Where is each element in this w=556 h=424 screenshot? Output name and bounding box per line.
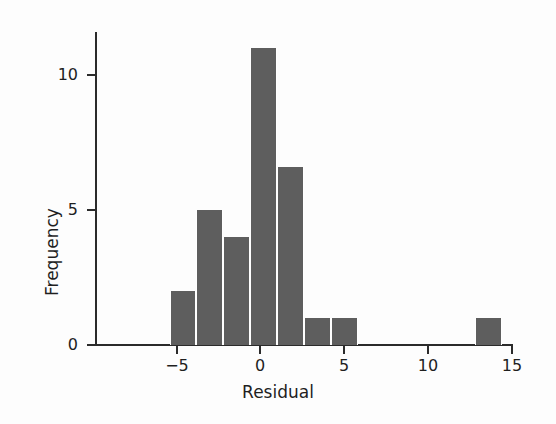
x-ticklabel-0: 0 [235, 356, 285, 375]
x-ticklabel-15: 15 [487, 356, 537, 375]
histogram-bar [277, 167, 304, 345]
x-tick-5 [343, 346, 345, 354]
plot-area: 10 5 0 −5 0 5 10 15 Frequency Residual [0, 0, 556, 424]
y-tick-5 [87, 209, 95, 211]
x-ticklabel-5: 5 [319, 356, 369, 375]
y-axis-label: Frequency [42, 208, 62, 296]
histogram-figure: 10 5 0 −5 0 5 10 15 Frequency Residual [0, 0, 556, 424]
histogram-bar [196, 210, 223, 345]
y-axis-label-wrap: Frequency [18, 100, 48, 300]
x-tick-minus5 [176, 346, 178, 354]
y-tick-0 [87, 344, 95, 346]
x-ticklabel-10: 10 [403, 356, 453, 375]
x-ticklabel-minus5: −5 [152, 356, 202, 375]
histogram-bar [331, 318, 358, 345]
histogram-bar [304, 318, 331, 345]
x-tick-10 [427, 346, 429, 354]
x-axis-label: Residual [0, 382, 556, 402]
histogram-bar [223, 237, 250, 345]
y-tick-10 [87, 74, 95, 76]
x-tick-0 [259, 346, 261, 354]
y-ticklabel-0: 0 [44, 335, 78, 354]
histogram-bar [170, 291, 197, 345]
y-ticklabel-10: 10 [44, 65, 78, 84]
y-axis-line [95, 32, 97, 345]
x-tick-15 [511, 346, 513, 354]
histogram-bar [250, 48, 277, 345]
histogram-bar [475, 318, 502, 345]
